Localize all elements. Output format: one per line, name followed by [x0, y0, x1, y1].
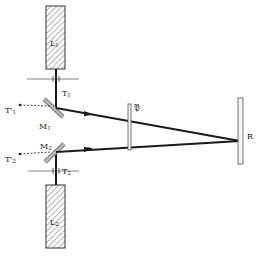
dot-t1p [19, 104, 22, 107]
beam-m2-to-r [56, 141, 240, 152]
label-m1: M1 [39, 116, 51, 132]
label-t2-prime: T'2 [5, 149, 16, 165]
stop-t1 [27, 76, 79, 82]
label-t2: T2 [62, 161, 71, 177]
label-t1: T1 [62, 83, 71, 99]
label-l2: L2 [50, 212, 59, 228]
dot-t2p [19, 153, 22, 156]
dashed-line-t1p [20, 105, 50, 106]
label-l1: L1 [50, 33, 59, 49]
stop-t2 [28, 168, 79, 174]
dashed-line-t2p [20, 152, 51, 154]
beam-m1-to-r [56, 108, 240, 141]
label-p: 𝔓 [134, 98, 140, 114]
plate-p [128, 104, 131, 150]
label-m2: M2 [40, 136, 52, 152]
screen-r [238, 98, 243, 164]
label-r: R [247, 126, 253, 142]
label-t1-prime: T'1 [5, 100, 16, 116]
